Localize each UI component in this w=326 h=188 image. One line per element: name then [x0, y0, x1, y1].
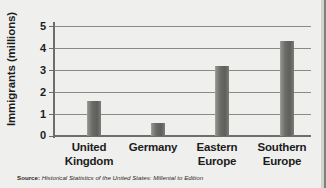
y-tick-label-1: 1: [30, 108, 46, 120]
y-tick-label-0: 0: [30, 129, 46, 141]
gridline-5: [55, 26, 311, 27]
bar-eastern-europe: [215, 66, 229, 136]
x-category-label-southern-europe: Southern Europe: [245, 140, 319, 168]
x-category-label-united-kingdom: United Kingdom: [52, 140, 126, 168]
x-category-label-line-1: Southern: [245, 140, 319, 154]
x-category-label-line-2: Kingdom: [52, 154, 126, 168]
x-category-label-line-2: Europe: [245, 154, 319, 168]
gridline-2: [55, 92, 311, 93]
x-category-label-line-2: Europe: [180, 154, 254, 168]
gridline-4: [55, 48, 311, 49]
gridline-3: [55, 70, 311, 71]
chart-figure: Immigrants (millions) 5 4 3 2 1 0 United…: [0, 0, 326, 188]
source-note: Source: Historical Statistics of the Uni…: [17, 174, 203, 181]
y-tick-label-5: 5: [30, 20, 46, 32]
bar-southern-europe: [280, 41, 294, 136]
x-category-label-line-1: Germany: [116, 140, 190, 154]
bar-united-kingdom: [87, 101, 101, 136]
y-tick-label-2: 2: [30, 86, 46, 98]
y-tick-label-3: 3: [30, 64, 46, 76]
source-note-prefix: Source:: [17, 174, 40, 181]
bar-germany: [151, 123, 165, 136]
x-category-label-eastern-europe: Eastern Europe: [180, 140, 254, 168]
plot-area: [55, 26, 311, 136]
y-axis-title: Immigrants (millions): [5, 4, 17, 134]
x-category-label-germany: Germany: [116, 140, 190, 154]
x-category-label-line-1: United: [52, 140, 126, 154]
source-note-text: Historical Statistics of the United Stat…: [42, 174, 203, 181]
y-axis-title-container: Immigrants (millions): [0, 8, 22, 138]
x-category-label-line-1: Eastern: [180, 140, 254, 154]
y-tick-label-4: 4: [30, 42, 46, 54]
